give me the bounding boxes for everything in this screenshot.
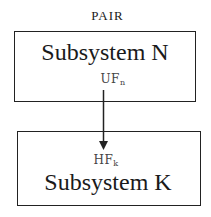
connection-arrow-icon (0, 0, 211, 217)
